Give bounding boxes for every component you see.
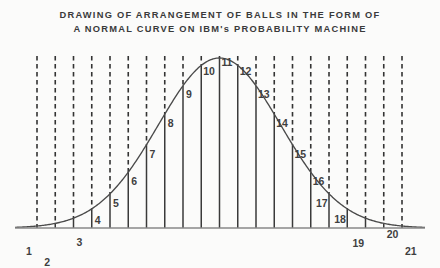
column-label-14: 14 <box>276 118 287 129</box>
column-label-18: 18 <box>334 214 345 225</box>
column-label-5: 5 <box>113 198 119 209</box>
column-label-19: 19 <box>353 238 364 249</box>
column-label-13: 13 <box>258 89 269 100</box>
column-label-2: 2 <box>44 257 50 268</box>
column-label-3: 3 <box>77 237 83 248</box>
column-label-15: 15 <box>295 149 306 160</box>
column-label-20: 20 <box>387 229 398 240</box>
column-label-7: 7 <box>150 149 156 160</box>
column-label-9: 9 <box>186 89 192 100</box>
column-label-21: 21 <box>405 246 416 257</box>
column-label-16: 16 <box>313 176 324 187</box>
column-label-11: 11 <box>222 57 233 68</box>
column-label-17: 17 <box>316 198 327 209</box>
column-label-1: 1 <box>26 246 32 257</box>
column-label-10: 10 <box>203 66 214 77</box>
column-label-12: 12 <box>240 66 251 77</box>
column-label-8: 8 <box>168 118 174 129</box>
column-label-6: 6 <box>131 176 137 187</box>
column-label-4: 4 <box>95 215 101 226</box>
